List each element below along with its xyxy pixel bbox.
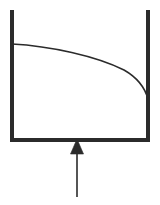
vessel-inflow-diagram xyxy=(0,0,160,205)
diagram-canvas xyxy=(0,0,160,205)
diagram-background xyxy=(0,0,160,205)
